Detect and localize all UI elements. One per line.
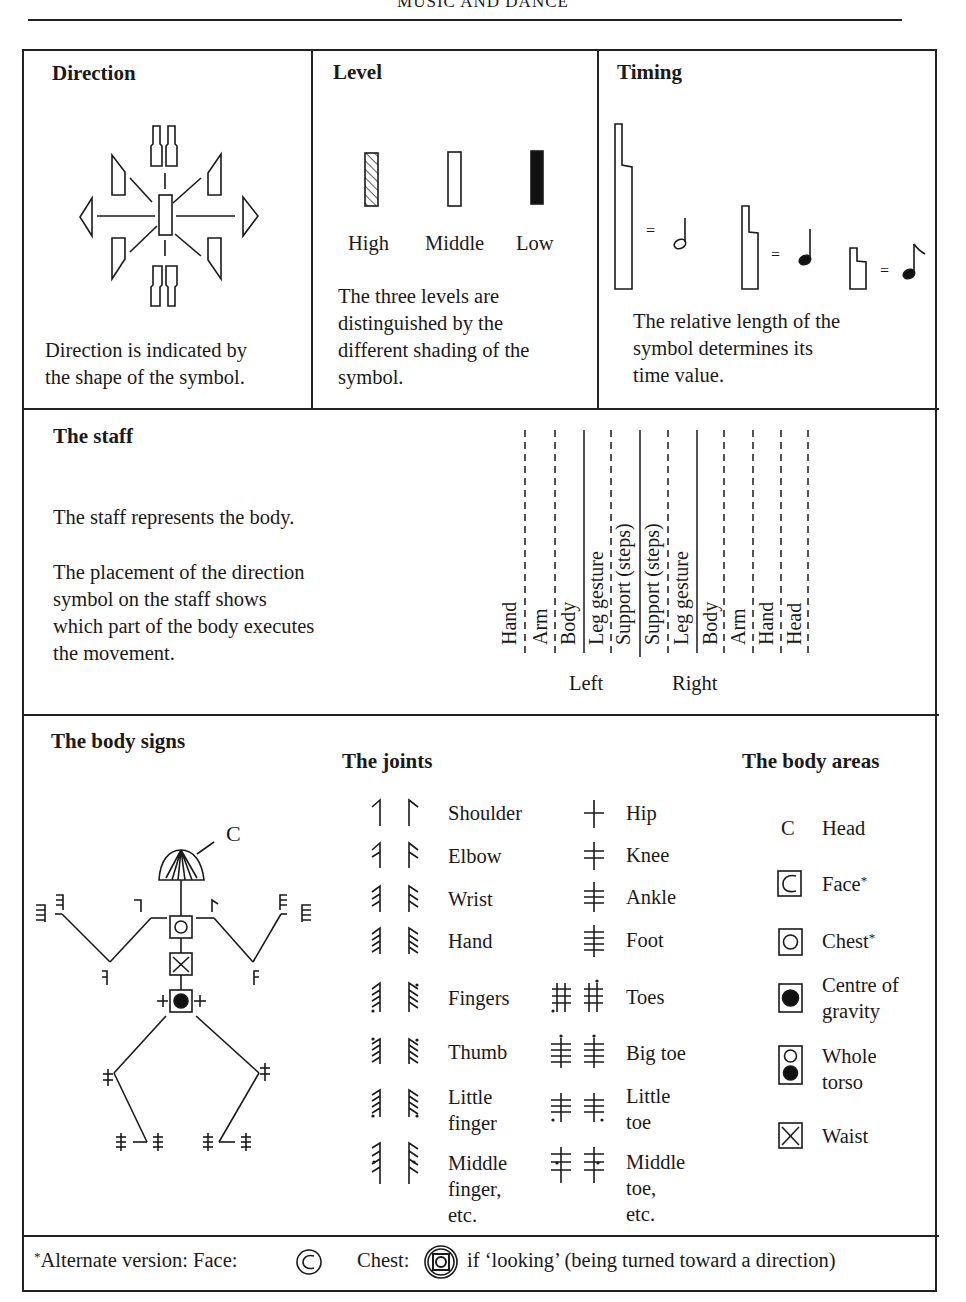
footnote-chest-text: Chest:	[357, 1248, 409, 1272]
area-label-waist: Waist	[822, 1124, 868, 1148]
area-label-head: Head	[822, 816, 865, 840]
footnote-text: *Alternate version: Face:	[34, 1248, 237, 1272]
alt-chest-sign-icon	[423, 1244, 463, 1280]
asterisk-marker: *	[861, 873, 868, 888]
area-label-centre-of-gravity: Centre of gravity	[822, 972, 899, 1024]
area-label-chest: Chest*	[822, 929, 875, 953]
asterisk-marker: *	[869, 930, 876, 945]
asterisk-marker: *	[34, 1249, 41, 1264]
footnote-looking-text: if ‘looking’ (being turned toward a dire…	[467, 1248, 836, 1272]
alt-face-sign-icon	[296, 1248, 326, 1278]
area-label-whole-torso: Whole torso	[822, 1043, 877, 1095]
area-label-face: Face*	[822, 872, 867, 896]
chest-sign-icon	[779, 929, 802, 955]
